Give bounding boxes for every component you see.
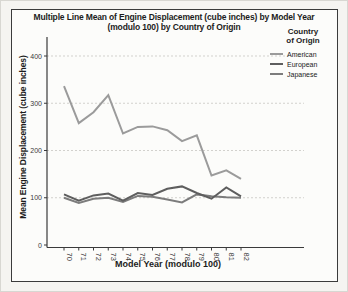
legend-title: Country of Origin bbox=[262, 27, 344, 45]
legend-label-european: European bbox=[287, 61, 317, 68]
legend-items: AmericanEuropeanJapanese bbox=[262, 49, 344, 79]
y-tick-label-100: 100 bbox=[30, 194, 42, 201]
legend: Country of Origin AmericanEuropeanJapane… bbox=[262, 27, 344, 79]
legend-item-japanese: Japanese bbox=[270, 69, 344, 79]
legend-item-american: American bbox=[270, 49, 344, 59]
legend-title-line1: Country bbox=[262, 27, 344, 36]
y-tick-label-0: 0 bbox=[38, 242, 42, 249]
legend-swatch-american-icon bbox=[270, 53, 283, 55]
legend-title-line2: of Origin bbox=[262, 36, 344, 45]
legend-swatch-japanese-icon bbox=[270, 73, 283, 75]
x-axis-title: Model Year (modulo 100) bbox=[37, 259, 299, 269]
y-tick-label-400: 400 bbox=[30, 53, 42, 60]
series-line-european bbox=[64, 186, 241, 200]
y-tick-label-200: 200 bbox=[30, 147, 42, 154]
legend-label-japanese: Japanese bbox=[287, 71, 317, 78]
legend-item-european: European bbox=[270, 59, 344, 69]
legend-label-american: American bbox=[287, 51, 317, 58]
y-axis-title: Mean Engine Displacement (cube inches) bbox=[18, 39, 28, 235]
chart-figure: Multiple Line Mean of Engine Displacemen… bbox=[0, 0, 348, 292]
legend-swatch-european-icon bbox=[270, 63, 283, 65]
series-line-american bbox=[64, 86, 241, 179]
y-tick-label-300: 300 bbox=[30, 100, 42, 107]
